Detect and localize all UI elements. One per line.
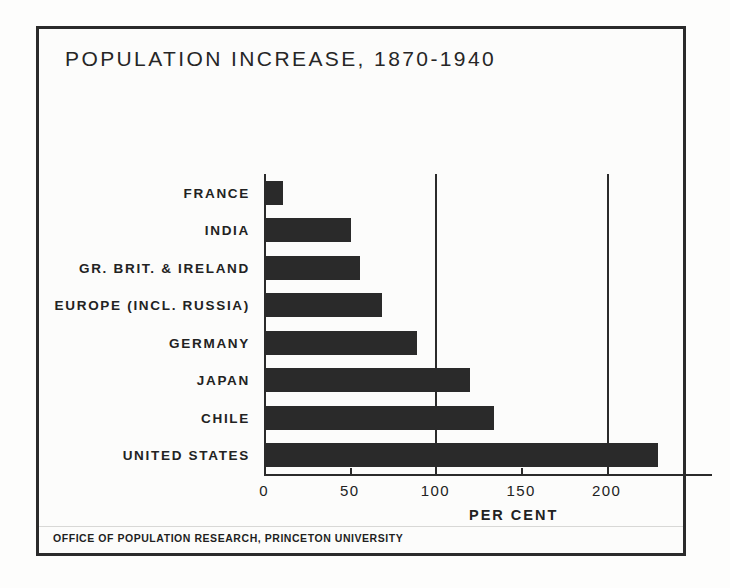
bar-row: GR. BRIT. & IRELAND — [264, 256, 689, 280]
chart-frame: POPULATION INCREASE, 1870-1940 FRANCEIND… — [36, 26, 686, 556]
x-axis-label: PER CENT — [469, 507, 558, 523]
bar — [264, 218, 351, 242]
bar — [264, 443, 658, 467]
footer-credit: OFFICE OF POPULATION RESEARCH, PRINCETON… — [53, 532, 403, 544]
bar — [264, 406, 494, 430]
x-tick-label: 50 — [340, 482, 360, 499]
bar — [264, 331, 417, 355]
bar-row: INDIA — [264, 218, 689, 242]
x-tick-150 — [521, 468, 523, 476]
category-label: GERMANY — [169, 335, 250, 350]
bar — [264, 368, 470, 392]
x-tick-100 — [435, 468, 437, 476]
bar — [264, 293, 382, 317]
category-label: FRANCE — [184, 185, 250, 200]
x-tick-label: 150 — [506, 482, 535, 499]
chart-page: POPULATION INCREASE, 1870-1940 FRANCEIND… — [0, 0, 730, 588]
bar-row: UNITED STATES — [264, 443, 689, 467]
x-tick-label: 200 — [592, 482, 621, 499]
x-tick-50 — [350, 468, 352, 476]
category-label: CHILE — [201, 410, 250, 425]
bar-row: GERMANY — [264, 331, 689, 355]
footer-divider — [39, 526, 683, 527]
x-tick-200 — [607, 468, 609, 476]
bar-row: CHILE — [264, 406, 689, 430]
bar-row: JAPAN — [264, 368, 689, 392]
category-label: EUROPE (INCL. RUSSIA) — [55, 298, 250, 313]
category-label: INDIA — [205, 223, 250, 238]
x-tick-0 — [264, 468, 266, 476]
chart-title: POPULATION INCREASE, 1870-1940 — [65, 47, 496, 71]
bar — [264, 256, 360, 280]
x-axis — [264, 474, 712, 476]
bar — [264, 181, 283, 205]
bar-row: FRANCE — [264, 181, 689, 205]
category-label: GR. BRIT. & IRELAND — [79, 260, 250, 275]
category-label: UNITED STATES — [123, 448, 250, 463]
x-tick-label: 100 — [421, 482, 450, 499]
x-tick-label: 0 — [259, 482, 269, 499]
plot-area: FRANCEINDIAGR. BRIT. & IRELANDEUROPE (IN… — [264, 174, 689, 474]
category-label: JAPAN — [197, 373, 250, 388]
bar-row: EUROPE (INCL. RUSSIA) — [264, 293, 689, 317]
